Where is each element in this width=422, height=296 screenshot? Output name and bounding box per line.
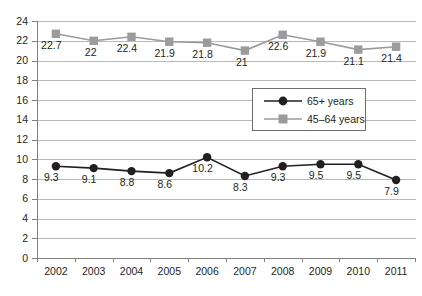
x-axis-tick-label: 2009 bbox=[301, 265, 341, 277]
data-point-square[interactable] bbox=[279, 31, 287, 39]
y-axis-tick-label: 8 bbox=[2, 174, 28, 184]
data-point-label: 21.1 bbox=[344, 56, 364, 67]
legend-label-45-64: 45–64 years bbox=[307, 113, 365, 125]
data-point-circle[interactable] bbox=[90, 164, 98, 172]
data-point-square[interactable] bbox=[203, 39, 211, 47]
data-point-label: 9.5 bbox=[346, 170, 361, 181]
legend-label-65-plus: 65+ years bbox=[307, 95, 353, 107]
data-point-square[interactable] bbox=[392, 43, 400, 51]
data-point-label: 10.2 bbox=[192, 163, 212, 174]
data-point-circle[interactable] bbox=[203, 153, 211, 161]
x-axis-tick-label: 2008 bbox=[263, 265, 303, 277]
legend: 65+ years 45–64 years bbox=[252, 88, 366, 131]
data-point-square[interactable] bbox=[90, 37, 98, 45]
data-point-label: 9.3 bbox=[271, 172, 286, 183]
data-point-label: 9.1 bbox=[82, 174, 97, 185]
data-point-circle[interactable] bbox=[316, 160, 324, 168]
x-axis-tick-label: 2010 bbox=[338, 265, 378, 277]
data-point-circle[interactable] bbox=[165, 169, 173, 177]
data-point-label: 21 bbox=[236, 57, 248, 68]
data-point-square[interactable] bbox=[354, 45, 362, 53]
data-point-square[interactable] bbox=[52, 30, 60, 38]
data-point-label: 8.3 bbox=[233, 182, 248, 193]
x-axis-tick bbox=[188, 258, 189, 262]
line-chart: 024681012141618202224 200220032004200520… bbox=[0, 0, 422, 296]
x-axis-tick-label: 2004 bbox=[112, 265, 152, 277]
y-axis-tick-label: 20 bbox=[2, 55, 28, 65]
data-point-circle[interactable] bbox=[392, 176, 400, 184]
y-axis-tick-label: 6 bbox=[2, 193, 28, 203]
legend-marker-circle-icon bbox=[262, 92, 304, 110]
x-axis-tick bbox=[37, 258, 38, 262]
x-axis-tick bbox=[113, 258, 114, 262]
x-axis-tick bbox=[415, 258, 416, 262]
y-axis-tick-label: 0 bbox=[2, 253, 28, 263]
x-axis-tick bbox=[264, 258, 265, 262]
x-axis-tick bbox=[150, 258, 151, 262]
data-point-square[interactable] bbox=[316, 38, 324, 46]
data-point-circle[interactable] bbox=[354, 160, 362, 168]
y-axis-tick-label: 2 bbox=[2, 233, 28, 243]
data-point-label: 9.3 bbox=[44, 172, 59, 183]
data-point-label: 8.6 bbox=[157, 179, 172, 190]
x-axis-tick-label: 2003 bbox=[74, 265, 114, 277]
data-point-square[interactable] bbox=[241, 46, 249, 54]
legend-marker-square-icon bbox=[262, 110, 304, 128]
y-axis-tick-label: 4 bbox=[2, 213, 28, 223]
x-axis-tick-label: 2011 bbox=[376, 265, 416, 277]
data-point-label: 21.9 bbox=[155, 48, 175, 59]
x-axis-tick-label: 2006 bbox=[187, 265, 227, 277]
x-axis-tick bbox=[226, 258, 227, 262]
y-axis-tick-label: 14 bbox=[2, 114, 28, 124]
x-axis-tick-label: 2005 bbox=[149, 265, 189, 277]
legend-item-45-64[interactable]: 45–64 years bbox=[253, 110, 365, 128]
data-point-circle[interactable] bbox=[52, 162, 60, 170]
data-point-label: 7.9 bbox=[384, 186, 399, 197]
data-point-label: 22.7 bbox=[41, 40, 61, 51]
legend-item-65-plus[interactable]: 65+ years bbox=[253, 92, 365, 110]
data-point-label: 22 bbox=[85, 47, 97, 58]
y-axis-tick-label: 18 bbox=[2, 75, 28, 85]
y-axis-tick-label: 12 bbox=[2, 134, 28, 144]
x-axis-tick bbox=[302, 258, 303, 262]
data-point-label: 21.9 bbox=[306, 48, 326, 59]
y-axis-tick-label: 10 bbox=[2, 154, 28, 164]
x-axis-tick-label: 2002 bbox=[36, 265, 76, 277]
x-axis-tick-label: 2007 bbox=[225, 265, 265, 277]
data-point-label: 21.8 bbox=[192, 49, 212, 60]
data-point-circle[interactable] bbox=[241, 172, 249, 180]
data-point-circle[interactable] bbox=[279, 162, 287, 170]
y-axis-tick-label: 24 bbox=[2, 16, 28, 26]
series-line bbox=[56, 157, 396, 180]
data-point-label: 22.6 bbox=[268, 41, 288, 52]
x-axis-tick bbox=[339, 258, 340, 262]
x-axis-tick bbox=[75, 258, 76, 262]
data-point-circle[interactable] bbox=[127, 167, 135, 175]
data-point-square[interactable] bbox=[127, 33, 135, 41]
data-point-square[interactable] bbox=[165, 38, 173, 46]
x-axis-tick bbox=[377, 258, 378, 262]
y-axis-tick-label: 16 bbox=[2, 95, 28, 105]
y-axis-tick-label: 22 bbox=[2, 35, 28, 45]
data-point-label: 21.4 bbox=[381, 53, 401, 64]
data-point-label: 9.5 bbox=[309, 170, 324, 181]
data-point-label: 22.4 bbox=[117, 43, 137, 54]
data-point-label: 8.8 bbox=[120, 177, 135, 188]
series-line bbox=[56, 34, 396, 51]
